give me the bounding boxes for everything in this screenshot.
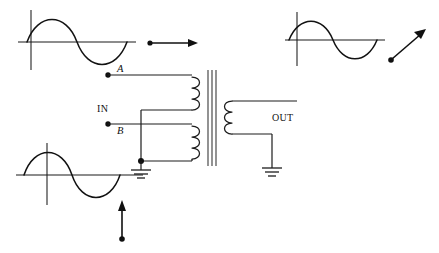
input-waveform-top-left	[18, 10, 136, 70]
output-waveform-top-right	[285, 12, 385, 66]
label-input: IN	[97, 104, 108, 114]
coil-windings	[192, 77, 200, 110]
coil-windings	[225, 101, 233, 134]
label-terminal-b: B	[117, 126, 123, 137]
label-terminal-a: A	[117, 64, 123, 75]
ground-secondary	[262, 168, 282, 176]
arrow-horizontal	[147, 39, 198, 47]
input-waveform-bottom-left	[16, 143, 143, 205]
arrow-tail-dot	[388, 57, 394, 63]
arrow-shaft	[392, 34, 421, 59]
schematic-diagram: A IN B OUT	[0, 0, 439, 253]
arrow-tail-dot	[119, 236, 125, 242]
arrow-diagonal	[388, 29, 426, 63]
diagram-canvas	[0, 0, 439, 253]
primary-coil-lower	[141, 126, 200, 161]
arrow-tail-dot	[147, 40, 152, 45]
coil-windings	[192, 126, 200, 159]
primary-coil-upper	[141, 77, 200, 110]
arrow-head	[188, 39, 198, 47]
transformer-core	[208, 70, 216, 166]
arrow-vertical	[118, 200, 126, 242]
arrow-head	[118, 200, 126, 211]
label-output: OUT	[272, 113, 293, 123]
